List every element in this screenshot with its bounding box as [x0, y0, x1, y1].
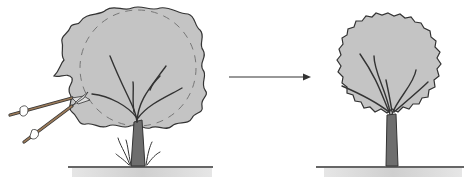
transition-arrow-icon	[229, 74, 311, 81]
pruning-diagram	[0, 0, 469, 184]
hand-icon	[30, 129, 39, 139]
after-tree	[316, 13, 464, 177]
ground-shadow	[72, 168, 212, 177]
hand-icon	[20, 106, 28, 116]
trunk	[386, 114, 398, 166]
ground-shadow	[324, 168, 462, 177]
before-tree	[10, 7, 213, 177]
trunk	[131, 120, 145, 166]
